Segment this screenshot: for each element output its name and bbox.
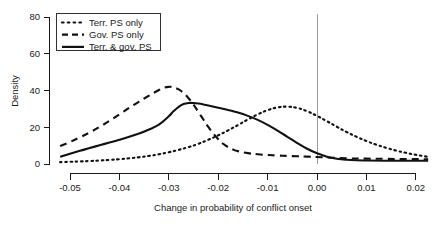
x-tick-label: 0.01	[357, 182, 376, 193]
x-tick-label: -0.04	[109, 182, 131, 193]
y-axis-ticks	[44, 17, 50, 164]
x-tick-label: -0.03	[158, 182, 180, 193]
x-axis-tick-labels: -0.05-0.04-0.03-0.02-0.010.000.010.02	[59, 182, 425, 193]
x-tick-label: -0.02	[207, 182, 229, 193]
series-curve-dashed	[60, 87, 428, 159]
legend-items: Terr. PS onlyGov. PS onlyTerr. & gov. PS	[62, 17, 152, 52]
y-axis-tick-labels: 020406080	[29, 11, 40, 169]
y-tick-label: 80	[29, 11, 40, 22]
x-tick-label: -0.01	[257, 182, 279, 193]
legend-label: Terr. PS only	[89, 17, 143, 28]
y-axis-title: Density	[9, 75, 20, 107]
x-axis-ticks	[70, 174, 416, 180]
data-curves	[60, 87, 428, 162]
y-tick-label: 20	[29, 122, 40, 133]
y-tick-label: 60	[29, 48, 40, 59]
x-axis-title: Change in probability of conflict onset	[154, 202, 312, 213]
y-tick-label: 40	[29, 85, 40, 96]
chart-figure: 020406080 -0.05-0.04-0.03-0.02-0.010.000…	[0, 0, 440, 226]
y-tick-label: 0	[35, 158, 40, 169]
legend-label: Terr. & gov. PS	[89, 41, 152, 52]
legend-label: Gov. PS only	[89, 29, 144, 40]
x-tick-label: -0.05	[59, 182, 81, 193]
density-plot: 020406080 -0.05-0.04-0.03-0.02-0.010.000…	[0, 0, 440, 226]
x-tick-label: 0.02	[407, 182, 426, 193]
legend: Terr. PS onlyGov. PS onlyTerr. & gov. PS	[57, 14, 161, 53]
x-tick-label: 0.00	[308, 182, 327, 193]
